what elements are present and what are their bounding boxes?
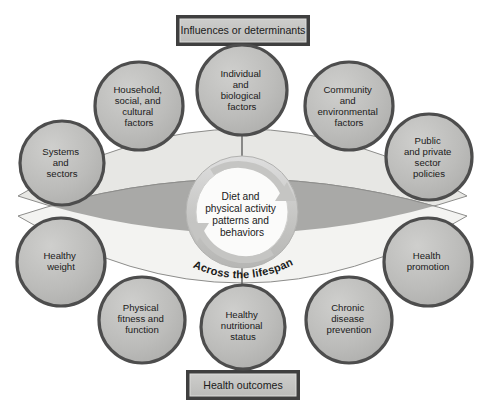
node-chronic-disease-prevention[interactable]: Chronic disease prevention	[306, 277, 392, 363]
node-label: Health promotion	[407, 250, 450, 272]
node-label: Healthy weight	[43, 250, 78, 272]
node-public-and-private-sector-policies[interactable]: Public and private sector policies	[386, 114, 472, 200]
node-healthy-weight[interactable]: Healthy weight	[17, 218, 105, 306]
influences-box-label: Influences or determinants	[181, 24, 306, 36]
node-physical-fitness-and-function[interactable]: Physical fitness and function	[99, 277, 185, 363]
node-community-and-environmental-factors[interactable]: Community and environmental factors	[305, 62, 393, 150]
node-label: Chronic disease prevention	[327, 302, 372, 335]
node-systems-and-sectors[interactable]: Systems and sectors	[20, 121, 104, 205]
figure-canvas: Diet and physical activity patterns and …	[0, 0, 485, 411]
node-household-social-cultural-factors[interactable]: Household, social, and cultural factors	[95, 62, 183, 150]
node-individual-and-biological-factors[interactable]: Individual and biological factors	[197, 45, 287, 135]
ecological-model-diagram: Diet and physical activity patterns and …	[0, 0, 485, 411]
outcomes-box-label: Health outcomes	[203, 379, 283, 391]
node-healthy-nutritional-status[interactable]: Healthy nutritional status	[201, 285, 285, 369]
outcomes-box: Health outcomes	[186, 370, 300, 400]
node-health-promotion[interactable]: Health promotion	[384, 218, 472, 306]
influences-box: Influences or determinants	[176, 15, 310, 46]
